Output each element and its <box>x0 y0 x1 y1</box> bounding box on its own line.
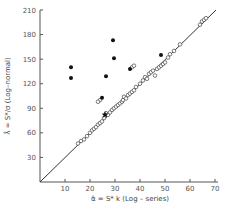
x-tick-label: 30 <box>111 185 120 193</box>
open-point <box>153 74 157 78</box>
filled-point <box>112 56 116 60</box>
y-tick-label: 180 <box>23 31 36 39</box>
open-point <box>96 100 100 104</box>
y-tick-label: 150 <box>23 56 36 64</box>
filled-point <box>100 96 104 100</box>
y-axis-label: λ̂ = S*/σ (Log–normal) <box>3 57 12 135</box>
open-point <box>151 69 155 73</box>
open-point <box>134 85 138 89</box>
scatter-chart: 306090120150180210 10203040506070 α̂ = S… <box>0 0 227 209</box>
open-point <box>138 82 142 86</box>
open-point <box>178 43 182 47</box>
y-tick-label: 30 <box>27 154 36 162</box>
y-tick-label: 90 <box>27 105 36 113</box>
open-point <box>168 52 172 56</box>
y-tick-label: 120 <box>23 80 36 88</box>
data-points <box>69 16 208 145</box>
open-point <box>82 138 86 142</box>
filled-point <box>104 74 108 78</box>
x-axis-label: α̂ = S* k (Log – series) <box>91 195 169 203</box>
filled-point <box>69 65 73 69</box>
open-point <box>132 64 136 68</box>
x-tick-label: 10 <box>61 185 70 193</box>
open-point <box>172 49 176 53</box>
y-tick-label: 60 <box>27 129 36 137</box>
y-tick-label: 210 <box>23 7 36 15</box>
filled-point <box>69 76 73 80</box>
x-axis: 10203040506070 <box>40 179 219 193</box>
open-point <box>163 61 167 65</box>
open-point <box>204 16 208 20</box>
y-axis: 306090120150180210 <box>23 7 43 183</box>
x-tick-label: 50 <box>161 185 170 193</box>
filled-point <box>111 38 115 42</box>
x-tick-label: 40 <box>136 185 145 193</box>
filled-point <box>159 53 163 57</box>
open-point <box>85 134 89 138</box>
filled-point <box>128 67 132 71</box>
x-tick-label: 60 <box>186 185 195 193</box>
x-tick-label: 20 <box>86 185 95 193</box>
x-tick-label: 70 <box>211 185 220 193</box>
open-point <box>145 77 149 81</box>
